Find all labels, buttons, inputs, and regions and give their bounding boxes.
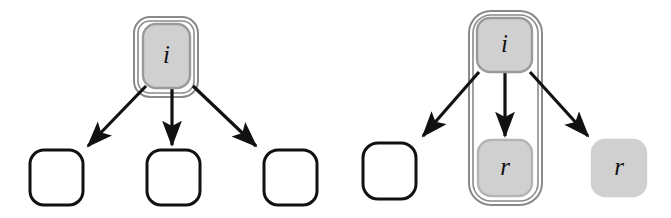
node-empty-left-1 — [30, 150, 83, 205]
node-i-left: i — [143, 24, 190, 88]
left-diagram: i — [30, 17, 317, 205]
figure-svg: iirr — [0, 0, 671, 218]
arrow-left-3 — [193, 86, 256, 146]
node-i-right: i — [477, 18, 532, 72]
node-empty-left-2 — [147, 150, 200, 205]
node-i-right-label: i — [501, 30, 508, 57]
node-empty-left-2-shape — [147, 150, 200, 205]
node-r-right-label: r — [614, 153, 624, 180]
node-r-center-label: r — [500, 153, 510, 180]
node-empty-right-shape — [363, 143, 416, 199]
node-empty-right — [363, 143, 416, 199]
node-empty-left-3-shape — [264, 150, 317, 205]
right-diagram: irr — [363, 11, 646, 205]
arrow-left-1 — [88, 86, 146, 146]
node-empty-left-1-shape — [30, 150, 83, 205]
node-r-right: r — [592, 140, 646, 196]
diagram-canvas: iirr — [0, 0, 671, 218]
node-i-left-label: i — [163, 41, 170, 68]
node-r-center: r — [478, 140, 532, 196]
diagram-groups: iirr — [30, 11, 646, 205]
node-empty-left-3 — [264, 150, 317, 205]
